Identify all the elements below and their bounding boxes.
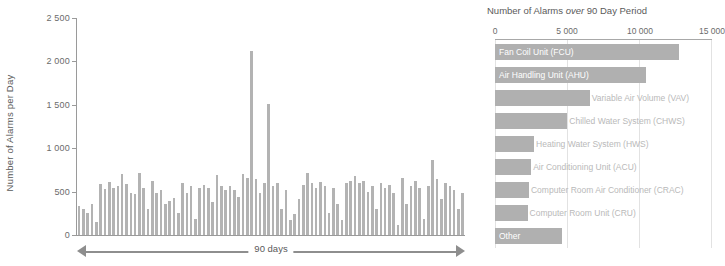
y-tick-2500: 2 500 — [26, 13, 70, 23]
bar-day-12 — [125, 184, 128, 235]
bar-day-14 — [134, 194, 137, 235]
bar-day-77 — [405, 204, 408, 235]
bar-day-33 — [216, 175, 219, 235]
bar-day-15 — [138, 173, 141, 235]
bar-day-86 — [444, 183, 447, 235]
bar-day-58 — [324, 186, 327, 235]
daily-alarms-chart: Number of Alarms per Day 2 500 2 000 1 5… — [0, 0, 480, 266]
bar-day-72 — [384, 188, 387, 235]
bar-day-76 — [401, 178, 404, 235]
bar-day-69 — [371, 186, 374, 235]
bar-day-82 — [427, 186, 430, 235]
x-tick-15000: 15 000 — [699, 26, 725, 36]
bar-day-68 — [367, 192, 370, 235]
bar-day-90 — [461, 193, 464, 235]
x-axis-span-annotation: 90 days — [77, 240, 465, 262]
bar-day-34 — [220, 186, 223, 235]
bar-day-2 — [82, 209, 85, 235]
bar-day-22 — [168, 201, 171, 235]
bar-day-4 — [91, 204, 94, 235]
bar-day-84 — [436, 179, 439, 235]
y-tick-1000: 1 000 — [26, 143, 70, 153]
bar-day-67 — [362, 181, 365, 235]
bar-chilled-water-system-chws — [495, 113, 567, 129]
bar-day-43 — [259, 193, 262, 235]
bar-day-35 — [224, 190, 227, 235]
bar-day-20 — [160, 190, 163, 235]
bar-day-39 — [242, 174, 245, 235]
bar-day-13 — [130, 193, 133, 235]
bar-day-63 — [345, 183, 348, 235]
bar-day-46 — [272, 186, 275, 235]
bar-day-28 — [194, 219, 197, 235]
bar-day-55 — [311, 183, 314, 235]
bar-day-8 — [108, 182, 111, 235]
bar-day-61 — [336, 204, 339, 235]
bar-day-49 — [285, 190, 288, 235]
bar-day-89 — [457, 209, 460, 235]
bar-day-83 — [431, 160, 434, 235]
bar-day-65 — [354, 176, 357, 235]
bar-day-32 — [211, 202, 214, 235]
bar-day-30 — [203, 185, 206, 235]
bar-day-17 — [147, 209, 150, 235]
bar-day-52 — [298, 199, 301, 235]
chart-title-em: over — [566, 5, 584, 16]
y-tick-1500: 1 500 — [26, 100, 70, 110]
bar-variable-air-volume-vav — [495, 90, 590, 106]
bar-day-66 — [358, 183, 361, 235]
arrow-right-icon — [456, 245, 465, 257]
chart-title: Number of Alarms over 90 Day Period — [487, 5, 647, 16]
bar-computer-room-unit-cru — [495, 205, 528, 221]
y-tick-2000: 2 000 — [26, 56, 70, 66]
bar-day-27 — [190, 186, 193, 235]
bar-day-42 — [255, 179, 258, 235]
bar-day-85 — [440, 199, 443, 235]
bar-day-74 — [392, 193, 395, 235]
bar-day-87 — [449, 186, 452, 235]
bar-day-1 — [78, 206, 81, 235]
bar-day-31 — [207, 188, 210, 235]
bar-label-variable-air-volume-vav: Variable Air Volume (VAV) — [592, 90, 689, 106]
bar-day-11 — [121, 174, 124, 235]
bar-day-24 — [177, 213, 180, 235]
x-tick-5000: 5 000 — [556, 26, 577, 36]
y-tick-500: 500 — [26, 187, 70, 197]
bar-day-73 — [388, 185, 391, 235]
bar-day-64 — [349, 181, 352, 235]
x-axis-label: 90 days — [248, 243, 293, 254]
bar-day-79 — [414, 181, 417, 235]
bar-day-19 — [155, 193, 158, 235]
bar-day-29 — [198, 188, 201, 235]
bar-day-16 — [142, 188, 145, 235]
bar-day-45 — [267, 104, 270, 235]
bar-day-40 — [246, 178, 249, 235]
alarms-by-equipment-chart: Number of Alarms over 90 Day Period 0 5 … — [487, 0, 722, 266]
bar-label-air-conditioning-unit-acu: Air Conditioning Unit (ACU) — [533, 159, 636, 175]
bar-day-59 — [328, 213, 331, 235]
bar-day-78 — [410, 186, 413, 235]
bar-day-81 — [423, 219, 426, 235]
bar-label-computer-room-unit-cru: Computer Room Unit (CRU) — [530, 205, 636, 221]
bar-day-21 — [164, 204, 167, 235]
bar-day-25 — [181, 183, 184, 235]
bar-day-41 — [250, 51, 253, 235]
chart-title-post: 90 Day Period — [584, 5, 647, 16]
bar-day-71 — [380, 183, 383, 235]
bar-day-54 — [306, 173, 309, 235]
x-axis-line — [76, 235, 465, 236]
bar-day-36 — [229, 186, 232, 235]
bar-day-53 — [302, 185, 305, 235]
chart-title-pre: Number of Alarms — [487, 5, 566, 16]
bar-day-18 — [151, 181, 154, 235]
y-tick-0: 0 — [26, 230, 70, 240]
bar-day-44 — [263, 183, 266, 235]
bar-day-60 — [332, 188, 335, 235]
x-tick-10000: 10 000 — [627, 26, 653, 36]
bar-heating-water-system-hws — [495, 136, 534, 152]
bar-day-75 — [397, 225, 400, 235]
x-tick-0: 0 — [493, 26, 498, 36]
bar-computer-room-air-conditioner-crac — [495, 182, 529, 198]
bar-day-62 — [341, 220, 344, 235]
bar-day-48 — [280, 209, 283, 235]
